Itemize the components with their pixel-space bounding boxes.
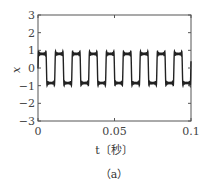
y-axis-label: x [10, 66, 23, 73]
x-axis-label: t〔秒〕 [95, 143, 132, 157]
y-tick-label: −1 [19, 80, 35, 93]
x-tick-label: 0 [35, 125, 42, 138]
y-tick-label: 0 [28, 62, 35, 75]
y-tick-label: −2 [19, 97, 35, 110]
data-line [38, 51, 191, 85]
x-tick-label: 0.05 [102, 125, 127, 138]
y-tick-label: −3 [19, 115, 35, 128]
y-tick-label: 1 [28, 44, 35, 57]
y-tick-label: 2 [28, 27, 35, 40]
x-tick-label: 0.1 [182, 125, 200, 138]
chart: 3210−1−2−300.050.1 t〔秒〕 x （a） [0, 0, 207, 185]
y-tick-label: 3 [28, 9, 35, 22]
figure-caption: （a） [100, 168, 129, 181]
